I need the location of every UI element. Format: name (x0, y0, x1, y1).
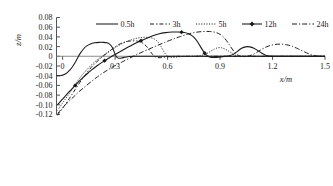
y-tick-label: 0 (49, 52, 53, 61)
chart-figure: 0.080.060.040.020-0.02-0.04-0.06-0.08-0.… (0, 0, 333, 186)
series-marker-12h (179, 30, 183, 34)
y-tick-label: -0.08 (36, 91, 53, 100)
series-curve-24h (58, 31, 325, 113)
x-tick-label: 0.9 (215, 62, 225, 71)
y-axis-title: z/m (13, 34, 23, 47)
legend-label-5h: 5h (219, 20, 227, 29)
legend-label-24h: 24h (317, 20, 329, 29)
y-tick-label: -0.12 (36, 110, 53, 119)
y-tick-label: 0.06 (39, 23, 53, 32)
legend-marker-12h (250, 22, 255, 27)
scour-profile-chart: 0.080.060.040.020-0.02-0.04-0.06-0.08-0.… (0, 0, 333, 186)
x-tick-label: 0 (61, 62, 65, 71)
series-marker-12h (139, 39, 143, 43)
x-axis-title: x/m (279, 74, 292, 84)
y-tick-label: -0.04 (36, 72, 53, 81)
x-tick-label: 1.2 (268, 62, 278, 71)
y-tick-label: 0.04 (39, 33, 53, 42)
plot-area: 0.080.060.040.020-0.02-0.04-0.06-0.08-0.… (0, 0, 333, 186)
y-tick-label: -0.10 (36, 101, 53, 110)
x-tick-label: 1.5 (320, 62, 330, 71)
y-tick-label: -0.02 (36, 62, 53, 71)
y-tick-label: 0.08 (39, 13, 53, 22)
y-tick-label: -0.06 (36, 81, 53, 90)
y-tick-label: 0.02 (39, 43, 53, 52)
x-tick-label: 0.6 (163, 62, 173, 71)
legend-label-3h: 3h (173, 20, 181, 29)
legend-label-0p5h: 0.5h (121, 20, 135, 29)
x-tick-label: 0.3 (110, 62, 120, 71)
series-curve-0p5h (57, 42, 326, 75)
legend-label-12h: 12h (265, 20, 277, 29)
